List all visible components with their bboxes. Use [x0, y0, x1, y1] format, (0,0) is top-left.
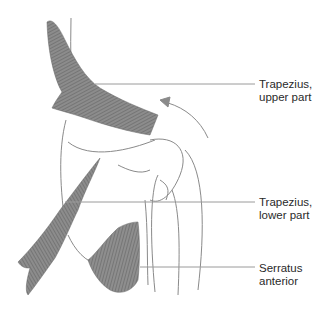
label-line: Trapezius,	[259, 78, 312, 91]
trapezius-lower-muscle	[18, 158, 100, 295]
label-line: Serratus	[259, 262, 302, 275]
label-trapezius-upper: Trapezius, upper part	[259, 78, 312, 104]
label-line: anterior	[259, 275, 302, 288]
label-trapezius-lower: Trapezius, lower part	[259, 196, 312, 222]
label-line: lower part	[259, 209, 312, 222]
trapezius-upper-muscle	[47, 21, 158, 135]
serratus-anterior-muscle	[88, 222, 140, 292]
label-serratus-anterior: Serratus anterior	[259, 262, 302, 288]
rotation-arrow-icon	[160, 97, 208, 138]
label-line: upper part	[259, 91, 312, 104]
label-line: Trapezius,	[259, 196, 312, 209]
